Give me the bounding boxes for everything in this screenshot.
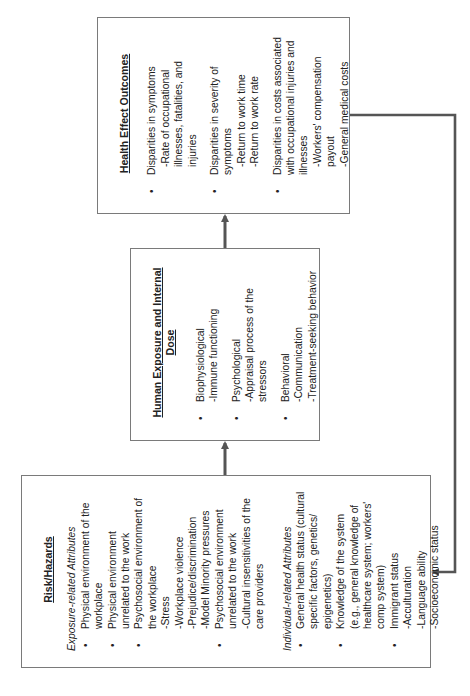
sub-item: -Prejudice/discrimination <box>186 488 199 629</box>
risk-hazards-box: Risk/Hazards Exposure-related Attributes… <box>21 475 431 668</box>
sub-item: -Communication <box>292 261 305 402</box>
sub-item: -Cultural insensitivities of the care pr… <box>240 488 267 629</box>
list-item: Psychosocial environment of the workplac… <box>132 488 212 651</box>
list-item: Behavioral -Communication -Treatment-see… <box>279 261 319 424</box>
sub-item: -Rate of occupational illnesses, fatalit… <box>159 30 199 175</box>
human-exposure-title: Human Exposure and Internal Dose <box>151 261 178 424</box>
list-item: Immigrant status -Acculturation -Languag… <box>388 488 442 651</box>
sub-item: -General medical costs <box>338 30 351 175</box>
sub-item: -Acculturation <box>401 488 414 629</box>
sub-item: -Workers' compensation payout <box>311 30 338 175</box>
sub-item: -Stress <box>159 488 172 629</box>
sub-item: -Treatment-seeking behavior <box>306 261 319 402</box>
sub-item: -Return to work time <box>235 30 248 175</box>
human-exposure-list: Biophysiological -Immune functioning Psy… <box>194 261 319 424</box>
list-item: Psychological -Appraisal process of the … <box>230 261 270 424</box>
individual-attributes-list: General health status (cultural specific… <box>294 488 441 651</box>
individual-attributes-label: Individual-related Attributes <box>281 488 294 651</box>
sub-item: -Model Minority pressures <box>199 488 212 629</box>
diagram-canvas: Risk/Hazards Exposure-related Attributes… <box>0 0 470 696</box>
list-item: Knowledge of the system (e.g., general k… <box>334 488 388 651</box>
sub-item: -Immune functioning <box>207 261 220 402</box>
risk-hazards-title: Risk/Hazards <box>42 488 55 651</box>
exposure-attributes-label: Exposure-related Attributes <box>65 488 78 651</box>
health-outcomes-title: Health Effect Outcomes <box>118 30 131 197</box>
exposure-attributes-list: Physical environment of the workplace Ph… <box>79 488 267 651</box>
list-item: Disparities in costs associated with occ… <box>271 30 351 197</box>
health-outcomes-box: Health Effect Outcomes Disparities in sy… <box>97 17 350 214</box>
sub-item: -Return to work rate <box>248 30 261 175</box>
list-item: Biophysiological -Immune functioning <box>194 261 221 424</box>
list-item: Physical environment unrelated to the wo… <box>106 488 133 651</box>
sub-item: -Socioeconomic status <box>428 488 441 629</box>
list-item: Disparities in severity of symptoms -Ret… <box>208 30 262 197</box>
sub-item: -Workplace violence <box>173 488 186 629</box>
list-item: Physical environment of the workplace <box>79 488 106 651</box>
human-exposure-box: Human Exposure and Internal Dose Biophys… <box>130 248 320 441</box>
list-item: General health status (cultural specific… <box>294 488 334 651</box>
sub-item: -Language ability <box>415 488 428 629</box>
list-item: Psychosocial environment unrelated to th… <box>213 488 267 651</box>
list-item: Disparities in symptoms -Rate of occupat… <box>145 30 199 197</box>
health-outcomes-list: Disparities in symptoms -Rate of occupat… <box>145 30 351 197</box>
sub-item: -Appraisal process of the stressors <box>243 261 270 402</box>
